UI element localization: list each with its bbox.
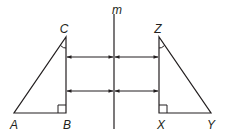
label-x: X bbox=[157, 119, 165, 131]
label-y: Y bbox=[207, 119, 215, 131]
diagram-figure bbox=[0, 0, 229, 136]
triangle-xyz bbox=[159, 37, 211, 113]
label-b: B bbox=[63, 119, 71, 131]
right-angle-mark-b bbox=[58, 105, 66, 113]
label-z: Z bbox=[154, 23, 161, 35]
right-angle-mark-x bbox=[159, 105, 167, 113]
label-a: A bbox=[10, 119, 18, 131]
label-m: m bbox=[112, 4, 122, 16]
angle-arc-z bbox=[159, 46, 165, 49]
label-c: C bbox=[60, 23, 69, 35]
reflection-diagram: m C Z A B X Y bbox=[0, 0, 229, 136]
angle-arc-c bbox=[61, 46, 67, 49]
triangle-abc bbox=[14, 37, 66, 113]
